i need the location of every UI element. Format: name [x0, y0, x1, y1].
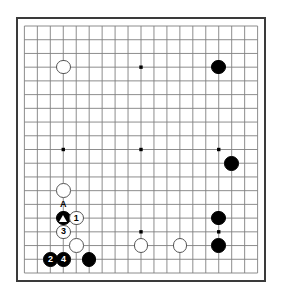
stone-black[interactable] [211, 238, 226, 253]
star-point [139, 65, 142, 68]
stone-white[interactable] [56, 60, 71, 75]
stone-white-3[interactable]: 3 [56, 225, 71, 240]
stone-white[interactable] [69, 238, 84, 253]
go-board[interactable]: 1324A [16, 17, 266, 282]
stone-move-number: 1 [74, 214, 79, 223]
stone-move-number: 3 [61, 227, 66, 236]
board-point-label-a: A [58, 200, 68, 209]
stone-black[interactable] [224, 156, 239, 171]
star-point [139, 148, 142, 151]
star-point [139, 230, 142, 233]
stone-white[interactable] [56, 183, 71, 198]
stone-white[interactable] [173, 238, 188, 253]
triangle-mark-icon [59, 215, 67, 222]
stone-white-1[interactable]: 1 [69, 211, 84, 226]
stone-black-4[interactable]: 4 [56, 252, 71, 267]
star-point [217, 230, 220, 233]
star-point [62, 148, 65, 151]
star-point [217, 148, 220, 151]
stone-white[interactable] [134, 238, 149, 253]
stone-move-number: 4 [61, 255, 66, 264]
stone-move-number: 2 [48, 255, 53, 264]
stone-black[interactable] [82, 252, 97, 267]
go-diagram-root: 1324A [0, 0, 283, 299]
